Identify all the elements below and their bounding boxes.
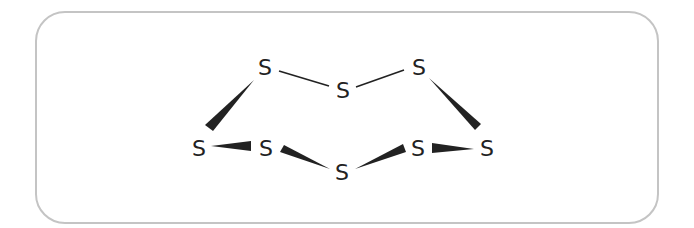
atom-s6: S — [335, 160, 349, 185]
atom-s2: S — [336, 78, 350, 103]
bond-s2-s3 — [356, 70, 404, 87]
s8-molecule-diagram: S S S S S S S S — [0, 0, 694, 228]
atom-s7: S — [411, 136, 425, 161]
atom-s3: S — [412, 55, 426, 80]
wedge-bond-s1-s4 — [205, 80, 254, 131]
wedge-bond-s5-s6 — [280, 145, 330, 169]
atom-s8: S — [480, 136, 494, 161]
wedge-bond-s3-s8 — [429, 78, 481, 130]
atom-s5: S — [259, 136, 273, 161]
atom-s4: S — [192, 136, 206, 161]
bond-s1-s2 — [279, 71, 329, 86]
atom-s1: S — [258, 55, 272, 80]
wedge-bond-s6-s7 — [355, 144, 406, 169]
wedge-bond-s4-s5 — [211, 141, 251, 151]
wedge-bond-s7-s8 — [432, 143, 474, 153]
